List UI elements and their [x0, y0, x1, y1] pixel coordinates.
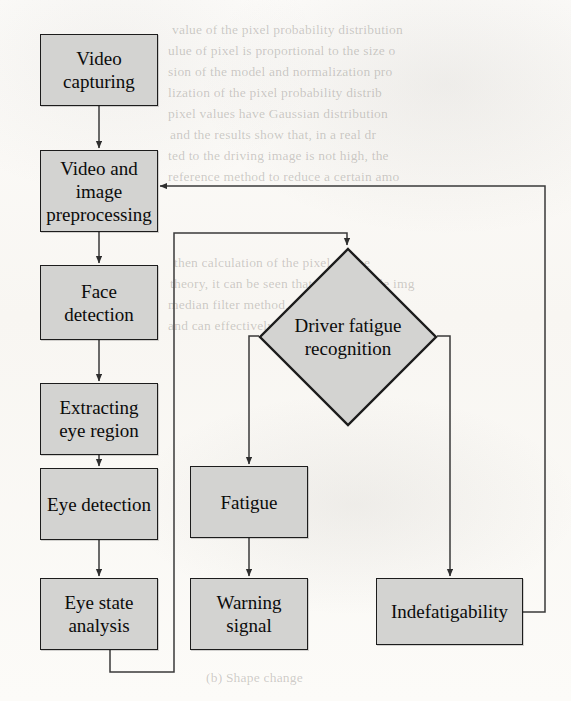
node-fatigue[interactable]: Fatigue: [190, 466, 308, 538]
node-driver-fatigue-recognition-label: Driver fatigue recognition: [268, 314, 428, 360]
node-fatigue-label: Fatigue: [218, 491, 281, 514]
node-eye-detection-label: Eye detection: [44, 493, 154, 516]
flowchart-page: value of the pixel probability distribut…: [0, 0, 571, 701]
node-indefatigability-label: Indefatigability: [388, 600, 511, 623]
node-eye-state-analysis[interactable]: Eye state analysis: [40, 578, 158, 650]
node-extracting-eye-region[interactable]: Extracting eye region: [40, 383, 158, 455]
node-warning-signal[interactable]: Warning signal: [190, 578, 308, 650]
node-indefatigability[interactable]: Indefatigability: [376, 578, 523, 645]
node-face-detection-label: Face detection: [41, 280, 157, 326]
node-driver-fatigue-recognition[interactable]: Driver fatigue recognition: [258, 247, 438, 427]
edge-driver-fatigue-recognition-to-indefatigability: [437, 336, 450, 576]
node-warning-signal-label: Warning signal: [191, 591, 307, 637]
node-eye-state-analysis-label: Eye state analysis: [41, 591, 157, 637]
node-video-capturing[interactable]: Video capturing: [40, 34, 158, 106]
node-extracting-eye-region-label: Extracting eye region: [41, 396, 157, 442]
node-video-and-image-preprocessing-label: Video and image preprocessing: [41, 157, 157, 226]
node-face-detection[interactable]: Face detection: [40, 265, 158, 340]
node-video-and-image-preprocessing[interactable]: Video and image preprocessing: [40, 150, 158, 232]
node-eye-detection[interactable]: Eye detection: [40, 468, 158, 540]
node-video-capturing-label: Video capturing: [41, 47, 157, 93]
